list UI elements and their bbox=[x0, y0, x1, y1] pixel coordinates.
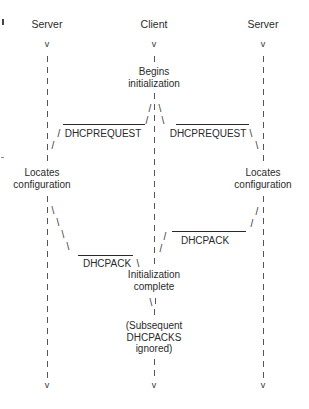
ack-left-line bbox=[78, 255, 133, 256]
ack-right-label: DHCPACK bbox=[181, 235, 229, 247]
ack-right-slash-3: / bbox=[164, 231, 167, 242]
fan-backslash-right-1: \ bbox=[159, 103, 162, 114]
center-top-arrow-icon: v bbox=[152, 40, 157, 49]
fan-slash-left-1: / bbox=[149, 103, 152, 114]
left-top-arrow-icon: v bbox=[45, 40, 50, 49]
edge-mark-top bbox=[2, 19, 4, 25]
edge-mark-mid bbox=[1, 157, 4, 158]
ack-right-slash-2: / bbox=[251, 218, 254, 229]
subsequent-acks-ignored-text: (Subsequent DHCPACKS ignored) bbox=[126, 320, 183, 355]
initialization-complete-text: Initialization complete bbox=[128, 269, 180, 292]
client-label: Client bbox=[141, 19, 168, 30]
left-bottom-arrow-icon: v bbox=[45, 381, 50, 390]
request-left-label: DHCPREQUEST bbox=[65, 128, 142, 140]
ack-left-backslash-5: \ bbox=[137, 258, 140, 269]
right-locates-configuration-text: Locates configuration bbox=[234, 167, 291, 190]
request-right-label: DHCPREQUEST bbox=[170, 128, 247, 140]
request-left-slash-1: / bbox=[58, 128, 61, 139]
fan-backslash-right-2: \ bbox=[162, 115, 165, 126]
ack-left-backslash-4: \ bbox=[67, 241, 70, 252]
center-bottom-arrow-icon: v bbox=[152, 381, 157, 390]
ack-left-backslash-3: \ bbox=[62, 229, 65, 240]
ack-left-backslash-2: \ bbox=[57, 217, 60, 228]
ack-left-label: DHCPACK bbox=[83, 258, 131, 270]
fan-slash-left-2: / bbox=[146, 115, 149, 126]
right-top-arrow-icon: v bbox=[261, 40, 266, 49]
left-locates-configuration-text: Locates configuration bbox=[13, 167, 70, 190]
request-right-backslash-2: \ bbox=[256, 140, 259, 151]
right-server-label: Server bbox=[248, 19, 279, 30]
request-right-backslash-1: \ bbox=[250, 128, 253, 139]
complete-backslash: \ bbox=[150, 297, 153, 308]
ack-right-slash-4: / bbox=[160, 243, 163, 254]
ack-right-line bbox=[172, 231, 246, 232]
right-bottom-arrow-icon: v bbox=[261, 381, 266, 390]
request-left-slash-2: / bbox=[52, 140, 55, 151]
left-server-label: Server bbox=[32, 19, 63, 30]
begins-initialization-text: Begins initialization bbox=[128, 66, 180, 89]
ack-left-backslash-1: \ bbox=[52, 205, 55, 216]
ack-right-slash-1: / bbox=[256, 206, 259, 217]
request-left-line bbox=[63, 124, 145, 125]
request-right-line bbox=[176, 124, 249, 125]
